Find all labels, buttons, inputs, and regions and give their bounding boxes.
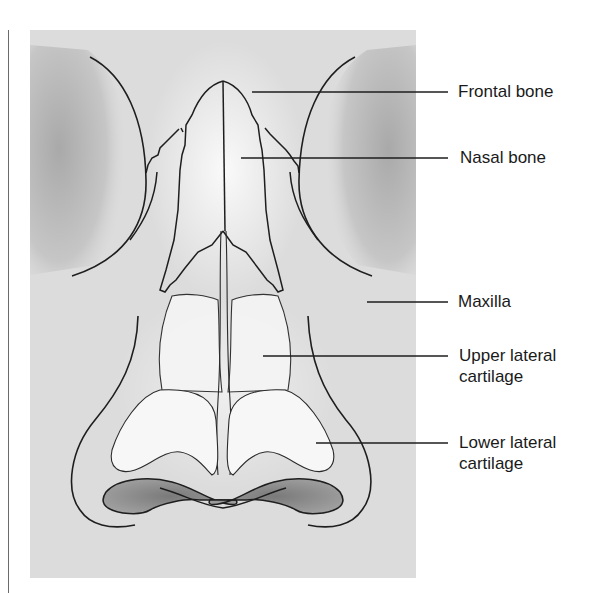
label-lower-lateral-cartilage: Lower lateral cartilage	[459, 432, 556, 474]
left-orbit-shadow	[30, 45, 127, 275]
right-orbit-shadow	[324, 45, 416, 275]
label-maxilla: Maxilla	[458, 291, 511, 312]
label-upper-lateral-cartilage: Upper lateral cartilage	[459, 345, 556, 387]
label-frontal-bone: Frontal bone	[458, 81, 553, 102]
label-nasal-bone: Nasal bone	[460, 147, 546, 168]
